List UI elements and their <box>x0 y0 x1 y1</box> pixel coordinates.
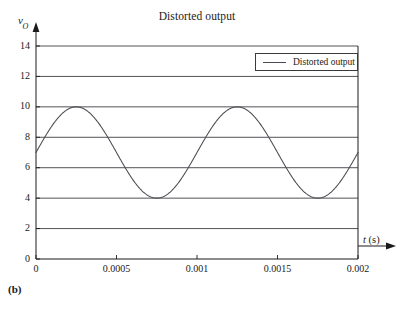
y-tick-label: 0 <box>4 253 30 264</box>
y-tick-label: 12 <box>4 70 30 81</box>
data-series-group <box>36 107 358 198</box>
legend: Distorted output <box>255 53 358 71</box>
y-tick-label: 2 <box>4 222 30 233</box>
legend-entry-distorted-output: Distorted output <box>256 54 357 70</box>
x-tick-label: 0.0015 <box>250 263 306 274</box>
y-tick-label: 10 <box>4 100 30 111</box>
x-tick-marks <box>36 255 358 259</box>
y-tick-label: 4 <box>4 192 30 203</box>
x-tick-label: 0.001 <box>169 263 225 274</box>
y-tick-label: 6 <box>4 161 30 172</box>
gridlines <box>36 46 358 229</box>
y-tick-label: 8 <box>4 131 30 142</box>
x-tick-label: 0.0005 <box>89 263 145 274</box>
data-series-distorted-output <box>36 107 358 198</box>
x-tick-label: 0 <box>8 263 64 274</box>
x-tick-label: 0.002 <box>330 263 386 274</box>
legend-label: Distorted output <box>293 57 355 67</box>
legend-line-swatch <box>263 62 286 63</box>
y-tick-label: 14 <box>4 40 30 51</box>
figure-caption: (b) <box>8 283 21 295</box>
figure-panel: Distorted output vO t (s) 02468101214 0 <box>0 0 406 309</box>
